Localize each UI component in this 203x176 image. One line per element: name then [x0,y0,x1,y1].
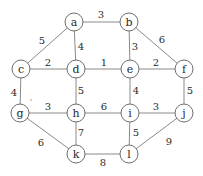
node-l: l [120,145,138,163]
node-b: b [120,13,138,31]
node-label: h [72,107,79,120]
edge-weight-a-b: 3 [98,9,104,20]
node-label: a [71,16,78,29]
scan-artifact-mark: ' [30,98,32,106]
node-label: c [18,63,24,76]
node-label: g [16,107,23,120]
edge-weight-e-f: 2 [153,57,159,68]
graph-diagram: 35436212454536367598 abcdefghijkl ' [0,0,203,176]
node-label: i [128,107,132,120]
edge-weight-i-l: 5 [133,127,139,138]
node-k: k [67,145,85,163]
edge-weight-i-j: 3 [153,101,159,112]
node-label: d [72,63,79,76]
edge-weight-f-j: 5 [187,85,193,96]
node-c: c [12,60,30,78]
edge-weight-c-g: 4 [11,87,17,98]
edge-weights-layer: 35436212454536367598 [11,9,193,168]
edge-weight-d-h: 5 [78,85,84,96]
node-f: f [175,60,193,78]
edge-weight-b-e: 3 [132,41,138,52]
edge-weight-a-c: 5 [39,35,45,46]
edge-weight-j-l: 9 [166,136,172,147]
node-label: b [125,16,132,29]
edge-weight-k-l: 8 [100,157,106,168]
node-j: j [175,104,193,122]
edge-weight-c-d: 2 [45,57,51,68]
node-d: d [67,60,85,78]
node-label: l [127,148,131,161]
node-e: e [121,60,139,78]
node-i: i [121,104,139,122]
edge-g-k [20,113,76,154]
edge-weight-a-d: 4 [78,41,84,52]
node-g: g [11,104,29,122]
edge-weight-h-i: 6 [101,101,107,112]
edge-weight-g-k: 6 [38,137,44,148]
node-label: e [127,63,134,76]
edge-weight-d-e: 1 [101,57,107,68]
edge-weight-e-i: 4 [133,85,139,96]
node-h: h [67,104,85,122]
edge-weight-g-h: 3 [45,101,51,112]
edge-weight-b-f: 6 [159,34,165,45]
node-label: k [73,148,80,161]
edge-weight-h-k: 7 [78,127,84,138]
node-a: a [65,13,83,31]
